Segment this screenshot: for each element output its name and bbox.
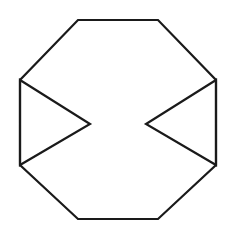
figure-background <box>0 0 236 237</box>
geometric-figure <box>0 0 236 237</box>
